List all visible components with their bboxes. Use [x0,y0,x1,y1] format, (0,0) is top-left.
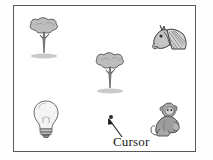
scene-canvas: Cursor [0,0,213,160]
monkey-icon[interactable] [148,99,190,139]
tree-icon[interactable] [88,52,132,96]
bulb-icon[interactable] [30,99,62,139]
tree-icon[interactable] [22,17,66,61]
horse-icon[interactable] [150,19,192,59]
cursor-label: Cursor [113,134,150,150]
